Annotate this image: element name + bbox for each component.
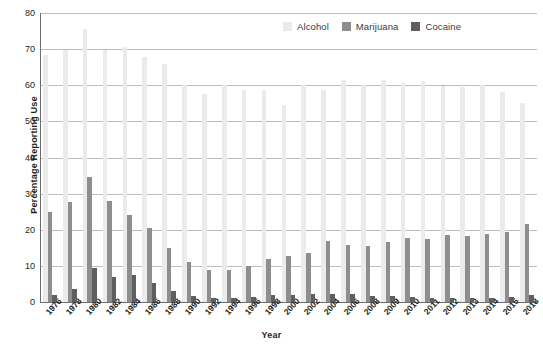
legend-item-cocaine[interactable]: Cocaine xyxy=(411,21,461,32)
bar-cocaine-2008[interactable] xyxy=(370,296,375,303)
bar-cocaine-2000[interactable] xyxy=(291,295,296,302)
bar-cocaine-2002[interactable] xyxy=(311,294,316,302)
bar-cocaine-2014[interactable] xyxy=(489,298,494,302)
bar-group xyxy=(219,13,239,302)
bar-marijuana-1978[interactable] xyxy=(68,202,73,302)
bar-group xyxy=(239,13,259,302)
x-tick-cell: 1996 xyxy=(239,302,259,332)
bar-marijuana-2012[interactable] xyxy=(445,235,450,302)
x-tick-cell: 1992 xyxy=(199,302,219,332)
bar-cocaine-2004[interactable] xyxy=(330,294,335,302)
bar-marijuana-2010[interactable] xyxy=(405,238,410,302)
bar-cocaine-2011[interactable] xyxy=(430,298,435,302)
bar-cocaine-2013[interactable] xyxy=(470,298,475,302)
bar-group xyxy=(60,13,80,302)
x-tick-cell: 2012 xyxy=(438,302,458,332)
y-tick-label: 20 xyxy=(25,225,35,235)
legend-swatch-marijuana xyxy=(342,22,351,31)
x-tick-cell: 2015 xyxy=(497,302,517,332)
y-tick-label: 40 xyxy=(25,153,35,163)
x-tick-cell: 1976 xyxy=(40,302,60,332)
bar-cocaine-1984[interactable] xyxy=(132,275,137,302)
bar-group xyxy=(378,13,398,302)
legend-swatch-cocaine xyxy=(411,22,420,31)
bar-marijuana-1976[interactable] xyxy=(48,212,53,302)
bar-group xyxy=(100,13,120,302)
bar-group xyxy=(120,13,140,302)
x-tick-cell: 2000 xyxy=(279,302,299,332)
y-tick-label: 80 xyxy=(25,8,35,18)
y-tick-label: 0 xyxy=(30,297,35,307)
bar-group xyxy=(298,13,318,302)
legend-item-alcohol[interactable]: Alcohol xyxy=(283,21,329,32)
bar-marijuana-2009[interactable] xyxy=(386,242,391,302)
bar-group xyxy=(457,13,477,302)
x-tick-cell: 1998 xyxy=(259,302,279,332)
x-tick-cell: 1994 xyxy=(219,302,239,332)
x-tick-cell: 2014 xyxy=(477,302,497,332)
bar-group xyxy=(139,13,159,302)
x-axis-title: Year xyxy=(0,330,543,340)
bar-cocaine-1978[interactable] xyxy=(72,289,77,302)
bar-cocaine-2018[interactable] xyxy=(529,295,534,302)
legend-label-alcohol: Alcohol xyxy=(297,21,329,32)
bar-cocaine-2010[interactable] xyxy=(410,297,415,302)
y-tick-label: 50 xyxy=(25,116,35,126)
bar-group xyxy=(418,13,438,302)
bars-layer xyxy=(40,13,537,302)
y-tick-label: 30 xyxy=(25,189,35,199)
x-tick-cell: 2013 xyxy=(457,302,477,332)
x-tick-cell: 2011 xyxy=(418,302,438,332)
x-tick-cell: 2008 xyxy=(358,302,378,332)
y-tick-label: 70 xyxy=(25,44,35,54)
x-tick-cell: 1990 xyxy=(179,302,199,332)
bar-group xyxy=(398,13,418,302)
bar-group xyxy=(179,13,199,302)
bar-cocaine-2012[interactable] xyxy=(450,298,455,302)
legend-item-marijuana[interactable]: Marijuana xyxy=(342,21,399,32)
bar-cocaine-1996[interactable] xyxy=(251,297,256,302)
legend-swatch-alcohol xyxy=(283,22,292,31)
bar-group xyxy=(517,13,537,302)
bar-cocaine-2015[interactable] xyxy=(509,297,514,302)
y-tick-label: 60 xyxy=(25,80,35,90)
bar-group xyxy=(338,13,358,302)
x-tick-cell: 1978 xyxy=(60,302,80,332)
bar-marijuana-2015[interactable] xyxy=(505,232,510,302)
bar-group xyxy=(438,13,458,302)
bar-group xyxy=(259,13,279,302)
bar-cocaine-1992[interactable] xyxy=(211,298,216,302)
bar-cocaine-1982[interactable] xyxy=(112,277,117,302)
bar-cocaine-1986[interactable] xyxy=(152,283,157,302)
x-tick-cell: 2010 xyxy=(398,302,418,332)
legend-label-marijuana: Marijuana xyxy=(356,21,399,32)
bar-cocaine-1990[interactable] xyxy=(191,296,196,303)
bar-cocaine-1980[interactable] xyxy=(92,268,97,302)
bar-cocaine-2006[interactable] xyxy=(350,294,355,302)
bar-marijuana-2013[interactable] xyxy=(465,236,470,302)
bar-group xyxy=(40,13,60,302)
bar-cocaine-2009[interactable] xyxy=(390,296,395,302)
bar-marijuana-2011[interactable] xyxy=(425,239,430,302)
bar-cocaine-1998[interactable] xyxy=(271,295,276,302)
bar-group xyxy=(279,13,299,302)
bar-group xyxy=(159,13,179,302)
bar-marijuana-2008[interactable] xyxy=(366,246,371,302)
bar-cocaine-1988[interactable] xyxy=(171,291,176,302)
x-tick-cell: 1986 xyxy=(139,302,159,332)
bar-marijuana-2018[interactable] xyxy=(525,224,530,302)
x-tick-cell: 1980 xyxy=(80,302,100,332)
bar-group xyxy=(497,13,517,302)
x-tick-cell: 2006 xyxy=(338,302,358,332)
plot-area: 01020304050607080 xyxy=(40,13,537,302)
bar-cocaine-1976[interactable] xyxy=(52,295,57,302)
x-tick-cell: 1988 xyxy=(159,302,179,332)
bar-group xyxy=(80,13,100,302)
bar-group xyxy=(358,13,378,302)
x-axis-tick-labels: 1976197819801982198419861988199019921994… xyxy=(40,302,537,332)
bar-group xyxy=(318,13,338,302)
x-tick-cell: 2009 xyxy=(378,302,398,332)
legend-label-cocaine: Cocaine xyxy=(425,21,461,32)
bar-marijuana-2014[interactable] xyxy=(485,234,490,302)
bar-cocaine-1994[interactable] xyxy=(231,298,236,302)
